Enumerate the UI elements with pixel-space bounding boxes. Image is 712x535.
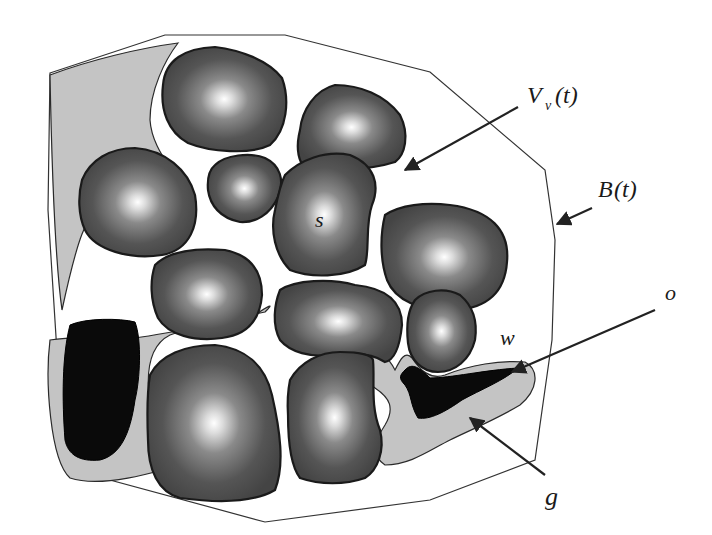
void-volume-subscript: v <box>545 98 552 113</box>
grain <box>275 281 402 362</box>
label-void-volume: V v (t) <box>527 82 578 113</box>
label-solid: s <box>315 207 324 232</box>
porous-medium-diagram: V v (t) B (t) s w o g <box>0 0 712 535</box>
arrow-oil <box>512 310 655 372</box>
arrow-boundary <box>557 208 592 224</box>
label-oil: o <box>665 280 676 305</box>
boundary-arg: (t) <box>614 176 637 202</box>
grain <box>407 290 475 372</box>
grain <box>152 249 262 339</box>
grain <box>162 47 286 151</box>
grain <box>208 155 281 222</box>
grain <box>288 352 382 483</box>
void-volume-symbol: V <box>527 82 544 108</box>
grain <box>147 345 280 501</box>
arrow-void-volume <box>405 107 518 170</box>
boundary-symbol: B <box>598 176 613 202</box>
arrow-gas <box>470 418 545 475</box>
label-gas: g <box>545 482 558 511</box>
grain <box>79 148 196 256</box>
label-boundary: B (t) <box>598 176 637 202</box>
label-water: w <box>500 325 515 350</box>
void-volume-arg: (t) <box>555 82 578 108</box>
diagram-canvas: V v (t) B (t) s w o g <box>0 0 712 535</box>
grain <box>273 154 375 276</box>
